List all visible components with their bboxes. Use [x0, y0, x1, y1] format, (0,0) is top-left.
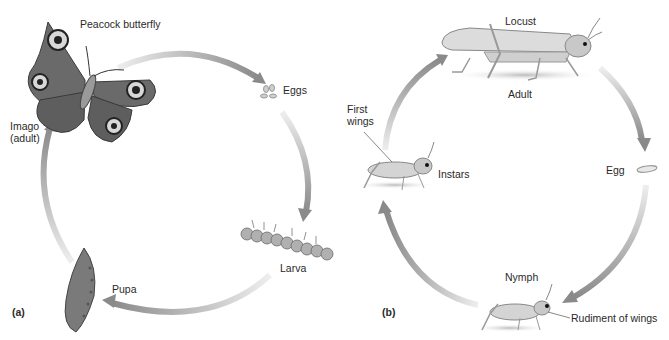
label-imago: Imago	[10, 120, 39, 132]
peacock-butterfly-illustration	[28, 22, 155, 142]
label-adult: Adult	[508, 88, 532, 100]
locust-egg-illustration	[637, 165, 658, 174]
locust-instar-illustration	[355, 132, 435, 190]
label-nymph: Nymph	[505, 271, 538, 283]
panel-label-b: (b)	[382, 306, 395, 318]
arrow-eggs-to-larva	[282, 112, 312, 222]
label-larva: Larva	[280, 262, 306, 274]
panel-label-a: (a)	[12, 306, 25, 318]
arrow-adult-to-egg	[600, 68, 651, 152]
label-first: First	[347, 103, 367, 115]
label-eggs: Eggs	[283, 84, 307, 96]
label-peacock-butterfly: Peacock butterfly	[80, 18, 161, 30]
arrow-egg-to-nymph	[562, 185, 646, 303]
arrow-nymph-to-instars	[378, 200, 478, 305]
locust-adult-illustration	[442, 18, 602, 81]
arrow-butterfly-to-eggs	[118, 54, 266, 84]
label-pupa: Pupa	[112, 283, 137, 295]
arrow-instars-to-adult	[385, 54, 448, 150]
label-instars: Instars	[438, 168, 470, 180]
label-egg: Egg	[606, 164, 625, 176]
life-cycle-diagram	[0, 0, 669, 340]
eggs-illustration	[261, 85, 277, 99]
label-first-wings: wings	[347, 115, 374, 127]
rudiment-of-wings-pointer	[548, 312, 570, 318]
label-imago-adult: (adult)	[10, 132, 40, 144]
larva-illustration	[241, 220, 333, 260]
locust-nymph-illustration	[472, 284, 570, 332]
arrow-pupa-to-imago	[44, 118, 72, 262]
label-rudiment-of-wings: Rudiment of wings	[571, 312, 657, 324]
label-locust: Locust	[505, 15, 536, 27]
